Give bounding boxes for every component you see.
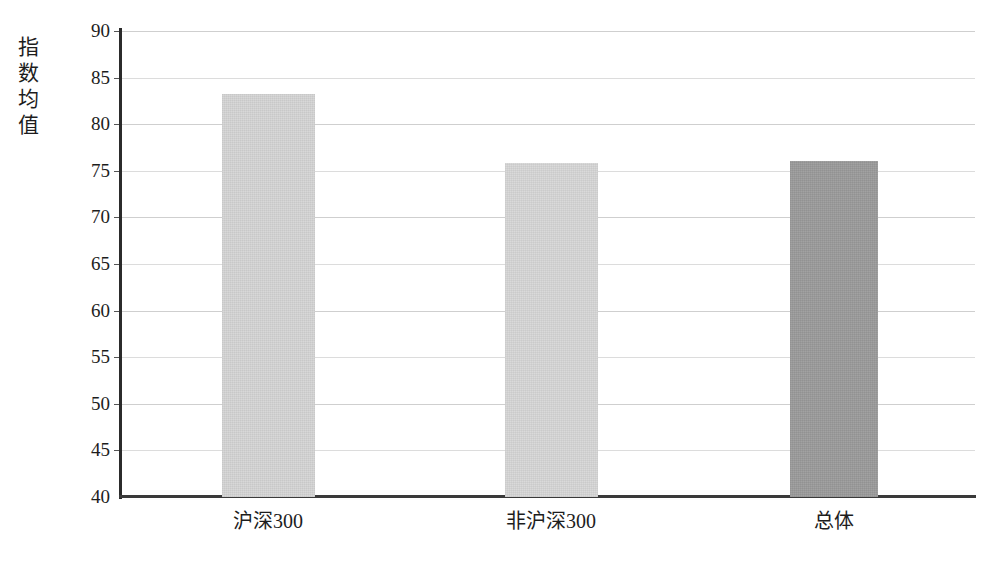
y-axis-tick-label: 50 xyxy=(52,394,110,413)
y-axis-tick-label: 55 xyxy=(52,347,110,366)
y-axis-tick-label: 80 xyxy=(52,114,110,133)
y-axis-title-char: 指 xyxy=(8,34,48,60)
y-axis-tick-label: 85 xyxy=(52,68,110,87)
bar xyxy=(505,163,598,497)
x-axis-category-label: 非沪深300 xyxy=(461,508,641,534)
y-axis-title: 指 数 均 值 xyxy=(8,34,48,138)
x-axis-category-label: 沪深300 xyxy=(178,508,358,534)
x-axis-category-labels: 沪深300非沪深300总体 xyxy=(122,508,975,544)
bars-layer xyxy=(122,31,975,497)
y-axis-title-char: 值 xyxy=(8,112,48,138)
y-axis-title-char: 均 xyxy=(8,86,48,112)
y-axis-tick-label: 90 xyxy=(52,21,110,40)
y-axis-tick-label: 40 xyxy=(52,487,110,506)
bar-chart: 指 数 均 值 9085807570656055504540 沪深300非沪深3… xyxy=(0,0,983,565)
y-axis-tick-label: 60 xyxy=(52,301,110,320)
bar xyxy=(790,161,878,497)
y-axis-title-char: 数 xyxy=(8,60,48,86)
y-axis-tick-label: 70 xyxy=(52,207,110,226)
y-axis-tick-label: 65 xyxy=(52,254,110,273)
y-axis-tick-labels: 9085807570656055504540 xyxy=(48,0,110,565)
bar xyxy=(222,94,315,497)
y-axis-tick-label: 75 xyxy=(52,161,110,180)
x-axis-category-label: 总体 xyxy=(744,508,924,534)
y-axis-tick-label: 45 xyxy=(52,440,110,459)
